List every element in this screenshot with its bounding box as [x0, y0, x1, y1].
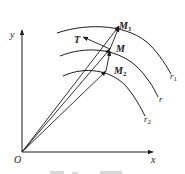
- point-M-label: M: [115, 43, 126, 54]
- curve-r2-label: r2: [144, 114, 152, 126]
- x-axis-label: x: [150, 154, 156, 165]
- caption-cutoff: [50, 171, 122, 174]
- vector-M2M: [106, 51, 110, 71]
- point-M2-label: M2: [113, 65, 127, 78]
- vector-OM1: [22, 26, 119, 152]
- origin-label: O: [14, 154, 21, 165]
- vector-OM2: [22, 71, 106, 152]
- curve-r2: [63, 70, 145, 116]
- vector-diagram: y x O M1 M M2 T r1 r r2: [0, 0, 185, 174]
- vector-OM: [22, 49, 110, 152]
- tangent-T-label: T: [74, 34, 81, 45]
- curve-r1-label: r1: [170, 71, 178, 83]
- y-axis-label: y: [9, 29, 15, 40]
- curve-r-label: r: [159, 94, 163, 104]
